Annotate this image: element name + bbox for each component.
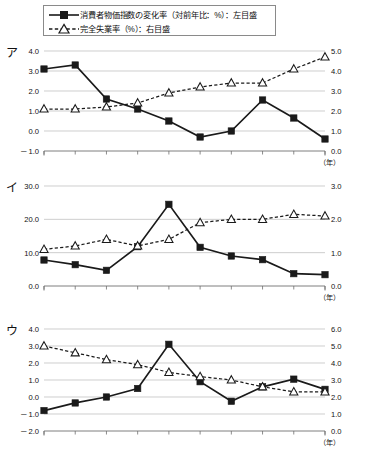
right-axis-tick-label: 4.0 (331, 67, 342, 76)
chart-panel-c: 4.03.02.01.00.0－1.0－2.06.05.04.03.02.01.… (0, 322, 369, 450)
x-axis-unit-label: （年） (319, 293, 340, 302)
chart-panel-a: 4.03.02.01.00.0－1.05.04.03.02.01.00.0（年） (0, 44, 369, 169)
chart-legend: 消費者物価指数の変化率（対前年比：%）：左目盛 完全失業率（%）：右目盛 (43, 5, 276, 36)
data-point-triangle (134, 99, 142, 106)
right-axis-tick-label: 0.0 (331, 147, 342, 156)
data-point-square (228, 253, 234, 259)
data-point-square (322, 136, 328, 142)
data-point-square (228, 128, 234, 134)
chart-panel-b: 30.020.010.00.03.02.01.00.0（年） (0, 179, 369, 304)
chart-b-plot: 30.020.010.00.03.02.01.00.0（年） (0, 179, 369, 304)
left-axis-tick-label: －1.0 (20, 147, 39, 156)
data-point-square (41, 66, 47, 72)
right-axis-tick-label: 5.0 (331, 342, 342, 351)
left-axis-tick-label: 0.0 (28, 127, 39, 136)
right-axis-tick-label: 6.0 (331, 325, 342, 334)
data-point-triangle (196, 372, 204, 379)
dashed-line-triangle-marker-icon (48, 23, 80, 35)
left-axis-tick-label: 1.0 (28, 376, 39, 385)
right-axis-tick-label: 3.0 (331, 376, 342, 385)
left-axis-tick-label: 30.0 (24, 182, 39, 191)
data-point-square (291, 115, 297, 121)
data-point-square (228, 398, 234, 404)
left-axis-tick-label: 20.0 (24, 215, 39, 224)
x-axis-unit-label: （年） (319, 438, 340, 447)
data-point-square (41, 407, 47, 413)
data-point-square (197, 134, 203, 140)
data-point-square (166, 341, 172, 347)
data-point-triangle (227, 79, 235, 86)
right-axis-tick-label: 2.0 (331, 215, 342, 224)
data-point-square (259, 256, 265, 262)
data-point-triangle (165, 235, 173, 242)
left-axis-tick-label: 2.0 (28, 87, 39, 96)
data-point-triangle (321, 53, 329, 60)
data-point-triangle (40, 342, 48, 349)
data-point-triangle (290, 210, 298, 217)
data-point-square (103, 394, 109, 400)
left-axis-tick-label: 4.0 (28, 47, 39, 56)
right-axis-tick-label: 1.0 (331, 249, 342, 258)
data-point-square (322, 271, 328, 277)
series-line-2 (44, 57, 325, 109)
right-axis-tick-label: 2.0 (331, 393, 342, 402)
data-point-square (41, 257, 47, 263)
right-axis-tick-label: 3.0 (331, 182, 342, 191)
data-point-square (103, 96, 109, 102)
x-axis-unit-label: （年） (319, 158, 340, 167)
series-line-2 (44, 346, 325, 392)
right-axis-tick-label: 3.0 (331, 87, 342, 96)
data-point-triangle (102, 235, 110, 242)
legend-label-unemployment: 完全失業率（%）：右目盛 (80, 24, 170, 35)
right-axis-tick-label: 0.0 (331, 427, 342, 436)
left-axis-tick-label: 3.0 (28, 342, 39, 351)
data-point-square (166, 201, 172, 207)
left-axis-tick-label: 0.0 (28, 393, 39, 402)
data-point-square (72, 261, 78, 267)
right-axis-tick-label: 4.0 (331, 359, 342, 368)
data-point-triangle (321, 212, 329, 219)
left-axis-tick-label: －1.0 (20, 410, 39, 419)
left-axis-tick-label: 2.0 (28, 359, 39, 368)
chart-c-plot: 4.03.02.01.00.0－1.0－2.06.05.04.03.02.01.… (0, 322, 369, 450)
data-point-square (72, 400, 78, 406)
left-axis-tick-label: －2.0 (20, 427, 39, 436)
series-line-1 (44, 344, 325, 410)
series-line-1 (44, 65, 325, 139)
left-axis-tick-label: 10.0 (24, 249, 39, 258)
legend-item-unemployment: 完全失業率（%）：右目盛 (48, 22, 170, 36)
data-point-triangle (290, 65, 298, 72)
data-point-square (291, 270, 297, 276)
data-point-triangle (196, 83, 204, 90)
data-point-square (72, 62, 78, 68)
solid-line-square-marker-icon (48, 9, 80, 21)
data-point-square (103, 267, 109, 273)
left-axis-tick-label: 4.0 (28, 325, 39, 334)
data-point-square (134, 106, 140, 112)
right-axis-tick-label: 1.0 (331, 410, 342, 419)
data-point-square (259, 97, 265, 103)
data-point-square (291, 376, 297, 382)
chart-a-plot: 4.03.02.01.00.0－1.05.04.03.02.01.00.0（年） (0, 44, 369, 169)
figure-root: 消費者物価指数の変化率（対前年比：%）：左目盛 完全失業率（%）：右目盛 ア イ… (0, 0, 369, 451)
data-point-square (197, 244, 203, 250)
legend-label-cpi: 消費者物価指数の変化率（対前年比：%）：左目盛 (80, 10, 257, 21)
right-axis-tick-label: 1.0 (331, 127, 342, 136)
data-point-square (166, 118, 172, 124)
left-axis-tick-label: 3.0 (28, 67, 39, 76)
right-axis-tick-label: 5.0 (331, 47, 342, 56)
left-axis-tick-label: 0.0 (28, 282, 39, 291)
right-axis-tick-label: 0.0 (331, 282, 342, 291)
right-axis-tick-label: 2.0 (331, 107, 342, 116)
legend-item-cpi: 消費者物価指数の変化率（対前年比：%）：左目盛 (48, 8, 257, 22)
data-point-triangle (227, 376, 235, 383)
data-point-square (134, 385, 140, 391)
series-line-1 (44, 204, 325, 274)
left-axis-tick-label: 1.0 (28, 107, 39, 116)
